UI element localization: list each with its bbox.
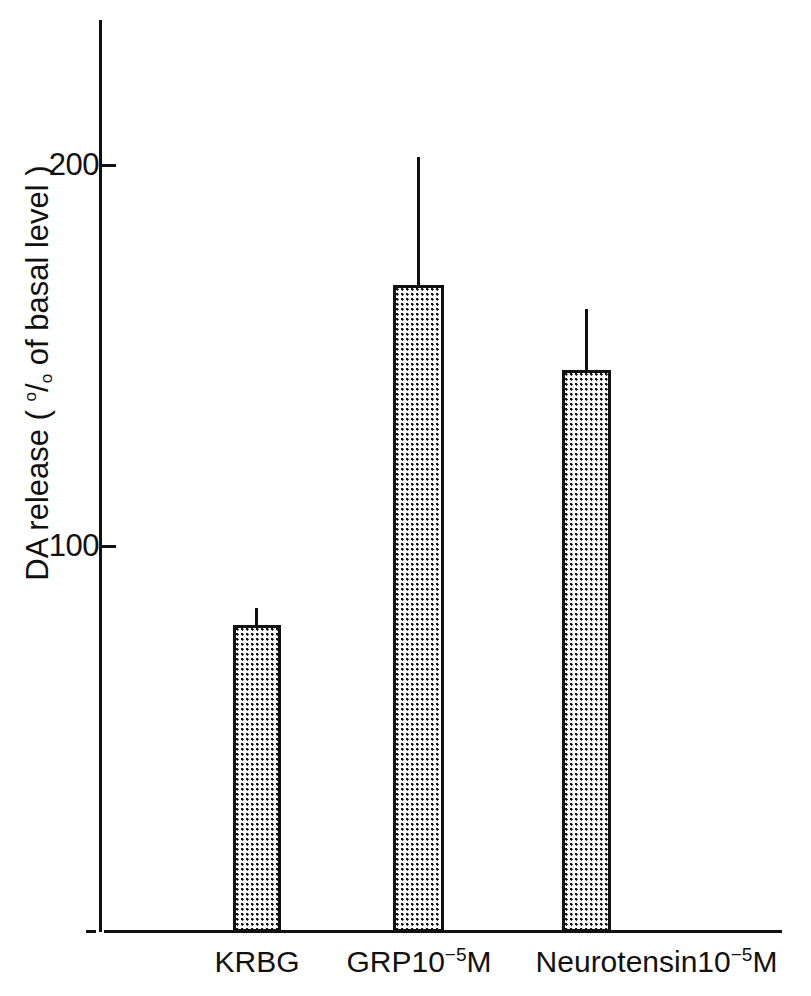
bar-grp-fill [396,288,441,929]
y-axis-title-tail: of basal level ) [20,165,55,374]
error-bar-grp [417,157,420,288]
page-bottom-margin [0,986,811,996]
x-axis-label-neurotensin-suffix: M [752,945,777,978]
y-axis-title: DA release ( o/o of basal level ) [20,63,56,683]
y-axis-title-lead: DA release ( [20,401,55,580]
bar-grp [393,285,444,932]
x-axis-label-krbg: KRBG [178,947,336,977]
bar-neurotensin [562,370,611,932]
percent-slash: / [20,383,55,392]
bar-neurotensin-fill [565,373,608,929]
x-axis-left-stub [86,930,96,933]
x-axis-label-neurotensin: Neurotensin10−5M [502,947,811,977]
y-axis-line [99,20,102,932]
x-axis-label-grp-suffix: M [467,945,492,978]
bar-krbg-fill [236,628,278,929]
x-axis-label-neurotensin-exponent: −5 [731,944,753,965]
x-axis-label-grp: GRP10−5M [345,947,493,977]
percent-degree-upper: o [21,392,40,401]
percent-symbol: o/o [20,374,55,402]
x-axis-label-grp-exponent: −5 [445,944,467,965]
y-tick-mark-100 [101,545,116,548]
bar-chart-figure: 200 100 DA release ( o/o of basal level … [0,0,811,996]
percent-degree-lower: o [37,374,56,383]
x-axis-label-grp-base: GRP10 [346,945,444,978]
x-axis-label-krbg-base: KRBG [214,945,299,978]
x-axis-label-neurotensin-base: Neurotensin10 [536,945,731,978]
y-tick-mark-200 [101,164,116,167]
error-bar-neurotensin [585,309,588,373]
bar-krbg [233,625,281,932]
